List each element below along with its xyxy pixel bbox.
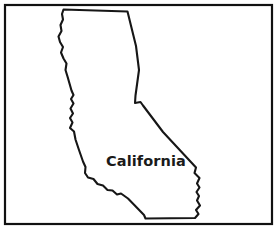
state-label-california: California (106, 153, 186, 169)
map-canvas: California (0, 0, 277, 231)
state-label-text: California (106, 153, 186, 169)
california-map-figure: California (0, 0, 277, 231)
california-state-outline (59, 10, 201, 219)
